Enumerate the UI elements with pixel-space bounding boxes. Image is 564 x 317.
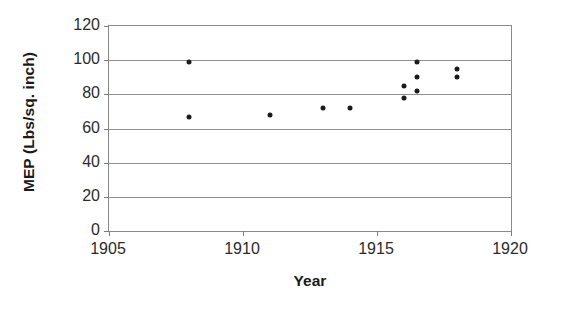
data-point xyxy=(187,59,192,64)
y-tick-label-120: 120 xyxy=(54,16,100,34)
y-tickmark-60 xyxy=(104,129,109,130)
y-tickmark-80 xyxy=(104,94,109,95)
x-axis-tick-labels: 1905191019151920 xyxy=(0,240,564,264)
y-tickmark-120 xyxy=(104,26,109,27)
gridline-y-60 xyxy=(109,129,511,130)
data-point xyxy=(267,112,272,117)
plot-area xyxy=(108,25,512,232)
y-tick-label-0: 0 xyxy=(54,221,100,239)
y-axis-title: MEP (Lbs/sq. inch) xyxy=(14,0,44,252)
data-point xyxy=(401,83,406,88)
gridline-y-20 xyxy=(109,197,511,198)
data-point xyxy=(415,59,420,64)
y-tick-label-80: 80 xyxy=(54,84,100,102)
data-point xyxy=(401,95,406,100)
gridline-y-100 xyxy=(109,60,511,61)
data-point xyxy=(455,75,460,80)
data-point xyxy=(415,88,420,93)
y-axis-tick-labels: 120100806040200 xyxy=(52,0,100,317)
y-tick-label-20: 20 xyxy=(54,187,100,205)
data-point xyxy=(348,106,353,111)
x-tickmark-1915 xyxy=(377,231,378,236)
x-tick-label-1910: 1910 xyxy=(202,240,282,258)
scatter-chart: MEP (Lbs/sq. inch) 120100806040200 19051… xyxy=(0,0,564,317)
x-tick-label-1915: 1915 xyxy=(336,240,416,258)
y-tick-label-60: 60 xyxy=(54,119,100,137)
x-tickmark-1920 xyxy=(511,231,512,236)
x-axis-title: Year xyxy=(108,272,512,290)
gridline-y-80 xyxy=(109,94,511,95)
data-point xyxy=(455,66,460,71)
y-tickmark-20 xyxy=(104,197,109,198)
x-tick-label-1905: 1905 xyxy=(68,240,148,258)
data-point xyxy=(187,114,192,119)
y-tick-label-100: 100 xyxy=(54,50,100,68)
x-tickmark-1905 xyxy=(109,231,110,236)
x-tickmark-1910 xyxy=(243,231,244,236)
data-point xyxy=(321,106,326,111)
y-tick-label-40: 40 xyxy=(54,153,100,171)
y-tickmark-100 xyxy=(104,60,109,61)
gridline-y-40 xyxy=(109,163,511,164)
x-tick-label-1920: 1920 xyxy=(470,240,550,258)
y-tickmark-40 xyxy=(104,163,109,164)
data-point xyxy=(415,75,420,80)
